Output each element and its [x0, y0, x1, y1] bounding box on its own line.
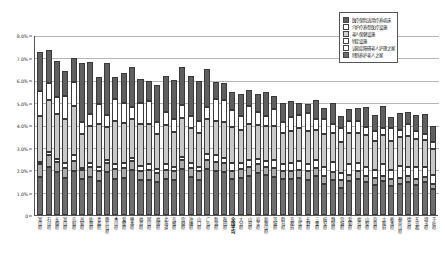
stacked-bar[interactable] [246, 90, 252, 215]
stacked-bar[interactable] [263, 92, 269, 215]
bar-segment[interactable] [280, 164, 286, 171]
stacked-bar[interactable] [62, 71, 68, 215]
bar-segment[interactable] [196, 81, 202, 120]
bar-segment[interactable] [296, 161, 302, 170]
bar-segment[interactable] [179, 160, 185, 169]
bar-segment[interactable] [355, 108, 361, 120]
bar-segment[interactable] [321, 184, 327, 216]
bar-segment[interactable] [363, 135, 369, 167]
bar-segment[interactable] [305, 164, 311, 171]
bar-segment[interactable] [380, 128, 386, 135]
bar-segment[interactable] [346, 164, 352, 174]
bar-segment[interactable] [171, 171, 177, 180]
bar-segment[interactable] [96, 104, 102, 124]
bar-segment[interactable] [87, 114, 93, 126]
bar-segment[interactable] [71, 58, 77, 83]
bar-segment[interactable] [196, 133, 202, 167]
bar-segment[interactable] [363, 107, 369, 127]
bar-segment[interactable] [313, 130, 319, 160]
bar-segment[interactable] [246, 167, 252, 176]
bar-segment[interactable] [196, 180, 202, 215]
bar-segment[interactable] [121, 168, 127, 178]
stacked-bar[interactable] [330, 103, 336, 216]
bar-segment[interactable] [171, 180, 177, 215]
stacked-bar[interactable] [271, 96, 277, 215]
stacked-bar[interactable] [146, 81, 152, 215]
bar-segment[interactable] [346, 121, 352, 133]
bar-segment[interactable] [263, 116, 269, 126]
stacked-bar[interactable] [363, 107, 369, 215]
bar-segment[interactable] [229, 92, 235, 110]
bar-segment[interactable] [346, 133, 352, 165]
bar-segment[interactable] [338, 180, 344, 188]
legend-item[interactable]: 老人保健设施 [343, 31, 394, 37]
bar-segment[interactable] [229, 163, 235, 171]
stacked-bar[interactable] [196, 81, 202, 215]
bar-segment[interactable] [430, 149, 436, 175]
bar-segment[interactable] [137, 180, 143, 215]
stacked-bar[interactable] [179, 67, 185, 216]
bar-segment[interactable] [62, 71, 68, 96]
bar-segment[interactable] [37, 177, 43, 215]
bar-segment[interactable] [163, 179, 169, 215]
bar-segment[interactable] [405, 112, 411, 124]
bar-segment[interactable] [62, 96, 68, 120]
bar-segment[interactable] [163, 125, 169, 164]
bar-segment[interactable] [397, 137, 403, 165]
bar-segment[interactable] [71, 171, 77, 215]
bar-segment[interactable] [246, 90, 252, 106]
bar-segment[interactable] [422, 167, 428, 177]
bar-segment[interactable] [204, 119, 210, 154]
stacked-bar[interactable] [280, 103, 286, 216]
stacked-bar[interactable] [46, 50, 52, 215]
bar-segment[interactable] [146, 180, 152, 215]
bar-segment[interactable] [188, 116, 194, 128]
bar-segment[interactable] [280, 103, 286, 122]
bar-segment[interactable] [280, 179, 286, 215]
bar-segment[interactable] [430, 189, 436, 215]
bar-segment[interactable] [397, 184, 403, 216]
stacked-bar[interactable] [305, 104, 311, 215]
bar-segment[interactable] [338, 188, 344, 215]
bar-segment[interactable] [221, 163, 227, 172]
stacked-bar[interactable] [204, 69, 210, 215]
bar-segment[interactable] [405, 124, 411, 136]
bar-segment[interactable] [112, 179, 118, 215]
bar-segment[interactable] [280, 122, 286, 133]
bar-segment[interactable] [271, 126, 277, 160]
bar-segment[interactable] [363, 182, 369, 215]
stacked-bar[interactable] [296, 103, 302, 216]
bar-segment[interactable] [112, 121, 118, 165]
legend-item[interactable]: 医疗保险适用疗养病床 [343, 17, 394, 23]
bar-segment[interactable] [146, 170, 152, 180]
bar-segment[interactable] [296, 128, 302, 161]
bar-segment[interactable] [79, 134, 85, 168]
bar-segment[interactable] [46, 83, 52, 100]
bar-segment[interactable] [179, 67, 185, 105]
bar-segment[interactable] [413, 139, 419, 167]
bar-segment[interactable] [288, 163, 294, 171]
bar-segment[interactable] [296, 115, 302, 129]
bar-segment[interactable] [54, 97, 60, 114]
bar-segment[interactable] [129, 170, 135, 215]
bar-segment[interactable] [330, 180, 336, 215]
bar-segment[interactable] [79, 122, 85, 134]
stacked-bar[interactable] [71, 58, 77, 216]
bar-segment[interactable] [263, 175, 269, 216]
bar-segment[interactable] [280, 171, 286, 179]
bar-segment[interactable] [46, 50, 52, 84]
bar-segment[interactable] [321, 134, 327, 167]
stacked-bar[interactable] [355, 108, 361, 215]
bar-segment[interactable] [288, 131, 294, 164]
bar-segment[interactable] [296, 178, 302, 215]
bar-segment[interactable] [179, 105, 185, 119]
bar-segment[interactable] [137, 171, 143, 180]
bar-segment[interactable] [37, 164, 43, 176]
bar-segment[interactable] [96, 171, 102, 181]
bar-segment[interactable] [380, 106, 386, 129]
bar-segment[interactable] [238, 178, 244, 215]
bar-segment[interactable] [330, 103, 336, 124]
stacked-bar[interactable] [163, 76, 169, 216]
bar-segment[interactable] [246, 106, 252, 124]
bar-segment[interactable] [46, 167, 52, 215]
